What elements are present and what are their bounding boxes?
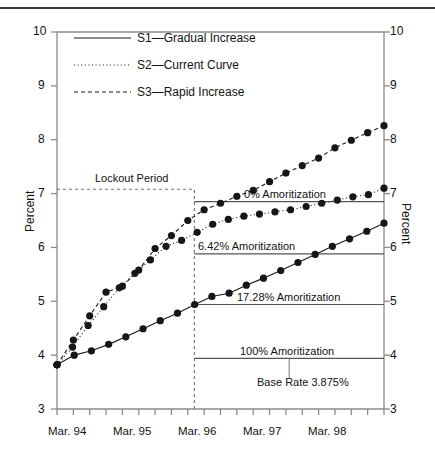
data-point — [139, 325, 146, 332]
ytick-right-10: 10 — [390, 25, 403, 37]
data-point — [318, 200, 325, 207]
data-point — [208, 293, 215, 300]
data-point — [86, 312, 93, 319]
data-point — [266, 178, 273, 185]
data-point — [348, 137, 355, 144]
data-point — [233, 193, 240, 200]
data-point — [85, 322, 92, 329]
ytick-left-8: 8 — [38, 133, 45, 145]
ytick-right-7: 7 — [390, 187, 397, 199]
annotation-amort-642: 6.42% Amoritization — [198, 241, 295, 252]
data-point — [271, 208, 278, 215]
xtick-mar95: Mar. 95 — [113, 426, 151, 438]
data-point — [157, 317, 164, 324]
data-point — [217, 200, 224, 207]
data-point — [329, 243, 336, 250]
data-point — [260, 275, 267, 282]
legend-item-s3[interactable]: S3—Rapid Increase — [137, 86, 244, 98]
ytick-left-10: 10 — [33, 25, 46, 37]
data-point — [100, 303, 107, 310]
data-point — [71, 352, 78, 359]
data-point — [364, 129, 371, 136]
data-point — [380, 185, 387, 192]
data-point — [201, 206, 208, 213]
data-point — [299, 162, 306, 169]
data-point — [70, 336, 77, 343]
data-point — [178, 237, 185, 244]
data-point — [102, 289, 109, 296]
data-point — [282, 170, 289, 177]
ytick-left-6: 6 — [38, 241, 45, 253]
annotation-amort-100: 100% Amoritization — [240, 346, 334, 357]
data-point — [349, 193, 356, 200]
data-point — [152, 245, 159, 252]
ytick-left-5: 5 — [38, 295, 45, 307]
xtick-mar97: Mar. 97 — [243, 426, 281, 438]
data-point — [122, 333, 129, 340]
data-point — [287, 206, 294, 213]
data-point — [365, 191, 372, 198]
series-line-dotted — [57, 188, 384, 365]
data-point — [135, 266, 142, 273]
data-point — [277, 267, 284, 274]
data-point — [105, 341, 112, 348]
lockout-box — [57, 189, 194, 409]
ytick-right-4: 4 — [390, 349, 397, 361]
data-point — [119, 283, 126, 290]
y-axis-title-left: Percent — [24, 191, 36, 232]
data-point — [240, 213, 247, 220]
data-point — [256, 210, 263, 217]
lockout-outline — [57, 189, 194, 409]
ytick-right-9: 9 — [390, 79, 397, 91]
data-point — [243, 282, 250, 289]
data-point — [191, 301, 198, 308]
data-point — [315, 154, 322, 161]
data-point — [168, 232, 175, 239]
data-point — [225, 216, 232, 223]
data-point — [88, 347, 95, 354]
y-axis-title-right: Percent — [400, 203, 412, 244]
annotation-base-rate: Base Rate 3.875% — [257, 377, 349, 388]
data-point — [331, 144, 338, 151]
data-point — [346, 235, 353, 242]
data-point — [363, 228, 370, 235]
xtick-mar98: Mar. 98 — [308, 426, 346, 438]
data-point — [209, 221, 216, 228]
ytick-left-4: 4 — [38, 349, 45, 361]
data-point — [312, 251, 319, 258]
xtick-mar96: Mar. 96 — [178, 426, 216, 438]
annotation-amort-1728: 17.28% Amoritization — [237, 292, 340, 303]
ytick-right-5: 5 — [390, 295, 397, 307]
legend-item-s1[interactable]: S1—Gradual Increase — [137, 32, 256, 44]
data-point — [303, 203, 310, 210]
data-point — [226, 290, 233, 297]
legend-item-s2[interactable]: S2—Current Curve — [137, 59, 239, 71]
ytick-right-6: 6 — [390, 241, 397, 253]
data-point — [294, 259, 301, 266]
data-point — [162, 243, 169, 250]
data-point — [194, 229, 201, 236]
ytick-left-9: 9 — [38, 79, 45, 91]
data-point — [53, 361, 60, 368]
chart-page: 10 9 8 7 6 5 4 3 10 9 8 7 6 5 4 3 Percen… — [0, 0, 435, 456]
ytick-right-3: 3 — [390, 403, 397, 415]
ytick-left-3: 3 — [38, 403, 45, 415]
data-point — [334, 196, 341, 203]
ytick-right-8: 8 — [390, 133, 397, 145]
xtick-mar94: Mar. 94 — [48, 426, 86, 438]
annotation-lockout-period: Lockout Period — [95, 173, 168, 184]
ytick-left-7: 7 — [38, 187, 45, 199]
data-point — [380, 220, 387, 227]
annotation-amort-0: 0% Amoritization — [244, 189, 326, 200]
data-point — [380, 122, 387, 129]
data-point — [174, 310, 181, 317]
legend-sample-lines — [74, 38, 131, 92]
data-point — [184, 217, 191, 224]
